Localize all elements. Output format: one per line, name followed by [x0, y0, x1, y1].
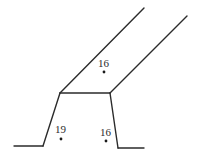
- cross-section-diagram: 16 19 16: [0, 0, 201, 165]
- point-upper: 16: [98, 57, 110, 73]
- upper-left-diagonal-line: [60, 8, 144, 93]
- point-label: 16: [100, 126, 112, 138]
- point-label: 16: [98, 57, 110, 69]
- upper-right-diagonal-line: [110, 16, 187, 93]
- point-marker: [60, 138, 63, 141]
- right-slope-line: [110, 93, 118, 148]
- point-marker: [103, 71, 106, 74]
- point-marker: [105, 140, 108, 143]
- point-lower-left: 19: [55, 123, 67, 140]
- left-slope-line: [43, 93, 60, 146]
- point-label: 19: [55, 123, 67, 135]
- point-lower-right: 16: [100, 126, 112, 142]
